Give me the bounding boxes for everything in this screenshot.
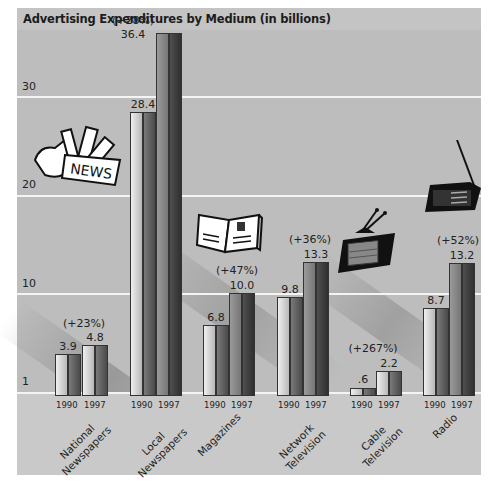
- bar-magazines-1990: [203, 325, 229, 396]
- bar-magazines-1997: [229, 293, 255, 396]
- percent-change-label: (+23%): [59, 317, 109, 330]
- percent-change-label: (+28%): [108, 14, 158, 27]
- y-tick-1: 1: [22, 375, 29, 388]
- value-label: 4.8: [75, 331, 115, 344]
- year-label: 1997: [158, 400, 180, 410]
- gridline-30: [17, 96, 481, 98]
- bar-network-television-1990: [277, 297, 303, 396]
- year-label: 1997: [231, 400, 253, 410]
- percent-change-label: (+36%): [285, 233, 335, 246]
- year-label: 1997: [84, 400, 106, 410]
- value-label: 36.4: [113, 28, 153, 41]
- television-icon: [335, 205, 405, 275]
- magazine-icon: [195, 210, 265, 255]
- y-tick-10: 10: [22, 277, 36, 290]
- bar-local-newspapers-1990: [130, 112, 156, 396]
- bar-cable-television-1990: [350, 388, 376, 396]
- value-label: 8.7: [416, 294, 456, 307]
- newspaper-icon: NEWS: [30, 120, 130, 190]
- year-label: 1990: [351, 400, 373, 410]
- percent-change-label: (+47%): [212, 264, 262, 277]
- bar-radio-1997: [449, 263, 475, 396]
- year-label: 1990: [131, 400, 153, 410]
- bar-national-newspapers-1990: [55, 354, 81, 396]
- y-tick-30: 30: [22, 80, 36, 93]
- year-label: 1997: [378, 400, 400, 410]
- chart-title: Advertising Expenditures by Medium (in b…: [23, 12, 331, 26]
- year-label: 1997: [451, 400, 473, 410]
- year-label: 1990: [204, 400, 226, 410]
- radio-icon: [415, 140, 485, 215]
- value-label: 28.4: [123, 98, 163, 111]
- gridline-20: [17, 195, 481, 197]
- percent-change-label: (+267%): [348, 342, 398, 355]
- percent-change-label: (+52%): [433, 234, 483, 247]
- value-label: 13.3: [296, 248, 336, 261]
- value-label: 13.2: [442, 249, 482, 262]
- value-label: 6.8: [196, 311, 236, 324]
- value-label: 2.2: [369, 357, 409, 370]
- bar-local-newspapers-1997: [156, 33, 182, 396]
- bar-radio-1990: [423, 308, 449, 396]
- year-label: 1990: [56, 400, 78, 410]
- year-label: 1990: [424, 400, 446, 410]
- value-label: 10.0: [222, 279, 262, 292]
- value-label: .6: [343, 373, 383, 386]
- value-label: 9.8: [270, 283, 310, 296]
- year-label: 1997: [305, 400, 327, 410]
- year-label: 1990: [278, 400, 300, 410]
